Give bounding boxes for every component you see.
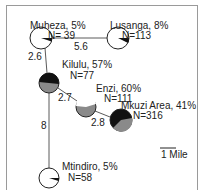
label-mkuzi-n: N=316 [133, 110, 163, 121]
label-muheza-n: N= 39 [48, 30, 75, 41]
distance-kilulu-mtindiro: 8 [41, 120, 47, 131]
label-kilulu-n: N=77 [70, 70, 94, 81]
label-mtindiro: Mtindiro, 5% [62, 161, 118, 172]
pie-kilulu[interactable] [39, 73, 59, 93]
distance-muheza-kilulu: 2.6 [28, 51, 42, 62]
distance-enzi-mkuzi: 2.8 [91, 117, 105, 128]
label-mtindiro-n: N=58 [68, 172, 92, 183]
label-kilulu: Kilulu, 57% [62, 59, 112, 70]
pie-mkuzi[interactable] [110, 109, 132, 132]
scale-bar-label: 1 Mile [161, 149, 188, 160]
edge-muheza-kilulu [45, 48, 47, 73]
distance-kilulu-enzi: 2.7 [58, 92, 72, 103]
distance-muheza-lusanga: 5.6 [74, 41, 88, 52]
pie-enzi[interactable] [76, 95, 96, 117]
pie-mtindiro[interactable] [39, 168, 59, 188]
label-lusanga-n: N=113 [122, 30, 151, 41]
